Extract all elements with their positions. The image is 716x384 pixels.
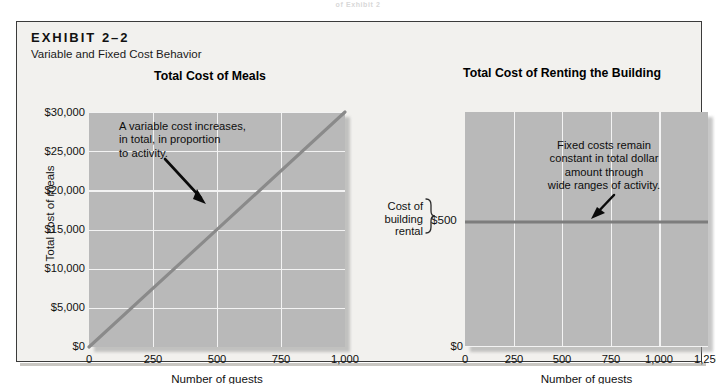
- x-tick-left-1000: 1,000: [320, 353, 370, 365]
- x-tick-left-750: 750: [256, 353, 306, 365]
- x-tick-right-1000: 1,000: [634, 353, 684, 365]
- gridline-h-r-0: [465, 346, 708, 347]
- chart-title-right: Total Cost of Renting the Building: [412, 66, 712, 80]
- x-tick-right-250: 250: [489, 353, 539, 365]
- x-tick-left-500: 500: [192, 353, 242, 365]
- gridline-v-750: [281, 112, 282, 347]
- annotation-variable-cost: A variable cost increases, in total, in …: [119, 120, 246, 160]
- callout-value-500: $500: [431, 213, 457, 226]
- exhibit-frame: EXHIBIT 2–2 Variable and Fixed Cost Beha…: [16, 21, 702, 362]
- callout-label-building-rental: Cost of building rental: [357, 200, 423, 238]
- x-tick-right-0: 0: [440, 353, 490, 365]
- y-tick-30000: $30,000: [19, 106, 85, 118]
- x-tick-right-750: 750: [586, 353, 636, 365]
- x-tick-left-0: 0: [64, 353, 114, 365]
- y-tick-right-0: $0: [397, 340, 463, 352]
- exhibit-page: of Exhibit 2 EXHIBIT 2–2 Variable and Fi…: [0, 0, 716, 384]
- y-tick-0: $0: [19, 340, 85, 352]
- y-axis-title-left: Total cost of meals: [43, 134, 56, 294]
- x-axis-title-left: Number of guests: [89, 372, 345, 384]
- chart-title-left: Total Cost of Meals: [75, 69, 345, 83]
- exhibit-number-label: EXHIBIT 2–2: [31, 30, 130, 45]
- y-tick-5000: $5,000: [19, 301, 85, 313]
- running-head: of Exhibit 2: [0, 1, 716, 8]
- annotation-fixed-cost: Fixed costs remain constant in total dol…: [514, 139, 694, 193]
- x-tick-right-500: 500: [537, 353, 587, 365]
- exhibit-subtitle: Variable and Fixed Cost Behavior: [31, 48, 201, 60]
- x-tick-right-1250: 1,250: [683, 353, 716, 365]
- x-axis-title-right: Number of guests: [465, 372, 708, 384]
- x-tick-left-250: 250: [128, 353, 178, 365]
